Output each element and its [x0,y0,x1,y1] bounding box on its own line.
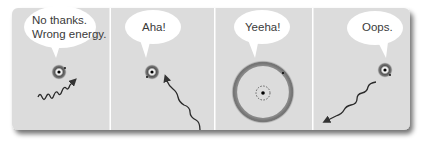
atom-icon [377,62,393,78]
atom-icon [51,64,67,80]
speech-line-1: Aha! [142,21,166,33]
speech-line-1: No thanks. [32,14,87,26]
speech-line-1: Oops. [362,21,393,33]
speech-line-2: Wrong energy. [32,28,106,40]
comic-strip: No thanks. Wrong energy. Aha! Yeeha! [0,0,429,145]
atom-icon [144,64,160,80]
speech-line-1: Yeeha! [245,21,280,33]
